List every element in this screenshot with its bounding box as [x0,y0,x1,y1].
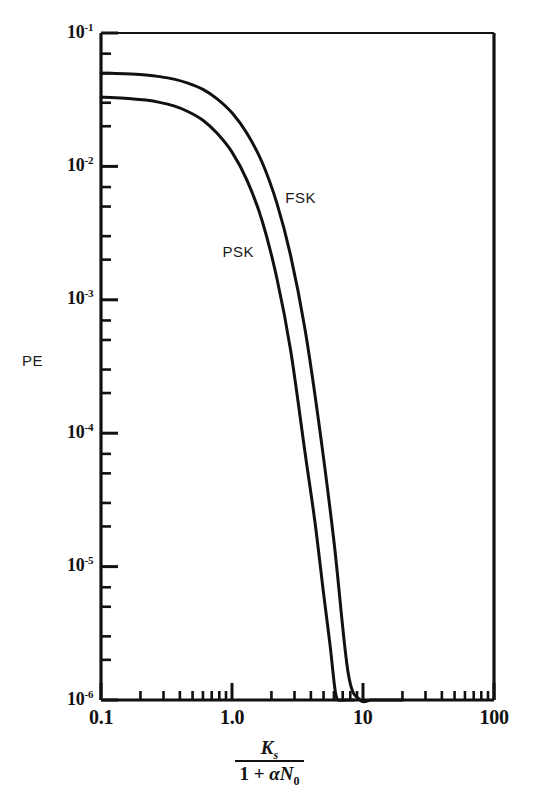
y-tick-mantissa-5: 10 [67,689,85,709]
y-tick-mantissa-4: 10 [67,555,85,575]
denominator-subscript: 0 [294,774,300,788]
y-tick-label-4: 10-5 [67,555,93,576]
y-axis-title: PE [22,352,43,369]
figure-root: 10-110-210-310-410-510-6 0.11.010100 PE … [0,0,539,805]
x-tick-label-0: 0.1 [89,706,113,729]
y-tick-label-2: 10-3 [67,288,93,309]
numerator-symbol: K [261,737,274,758]
y-tick-label-3: 10-4 [67,422,93,443]
numerator-subscript: s [274,748,279,762]
y-tick-label-0: 10-1 [67,22,93,43]
y-tick-mantissa-2: 10 [67,288,85,308]
fraction-denominator: 1 + αN0 [235,764,303,784]
y-tick-exponent-2: -3 [85,287,94,299]
x-tick-label-3: 100 [480,706,509,729]
x-axis-title: Ks 1 + αN0 [0,738,539,784]
y-tick-exponent-0: -1 [85,21,94,33]
x-tick-label-2: 10 [353,706,373,729]
y-tick-exponent-1: -2 [85,154,94,166]
denominator-prefix: 1 + [239,763,269,784]
denominator-alpha: α [269,763,280,784]
x-tick-label-1: 1.0 [220,706,244,729]
canvas-background [0,0,539,805]
y-tick-exponent-5: -6 [85,688,94,700]
y-tick-mantissa-3: 10 [67,422,85,442]
curve-label-fsk: FSK [285,189,316,206]
denominator-N: N [280,763,294,784]
fraction-numerator: Ks [235,738,303,759]
fraction-bar [235,760,303,762]
y-tick-exponent-4: -5 [85,554,94,566]
x-axis-title-fraction: Ks 1 + αN0 [235,738,303,784]
y-tick-mantissa-0: 10 [67,22,85,42]
y-tick-label-1: 10-2 [67,155,93,176]
y-tick-mantissa-1: 10 [67,155,85,175]
y-tick-exponent-3: -4 [85,421,94,433]
plot-canvas [0,0,539,805]
curve-label-psk: PSK [222,243,254,260]
